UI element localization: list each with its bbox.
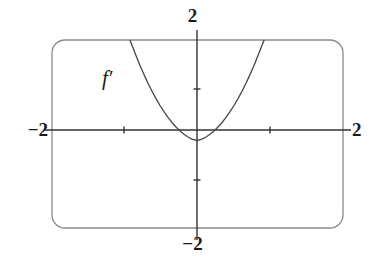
graph-figure: [0, 0, 385, 264]
axis-label-right: 2: [352, 120, 380, 139]
curve-label-f-prime: f′: [102, 68, 112, 89]
axis-label-left: −2: [14, 120, 48, 139]
axis-label-top: 2: [0, 6, 385, 25]
axis-label-bottom: −2: [0, 234, 385, 253]
